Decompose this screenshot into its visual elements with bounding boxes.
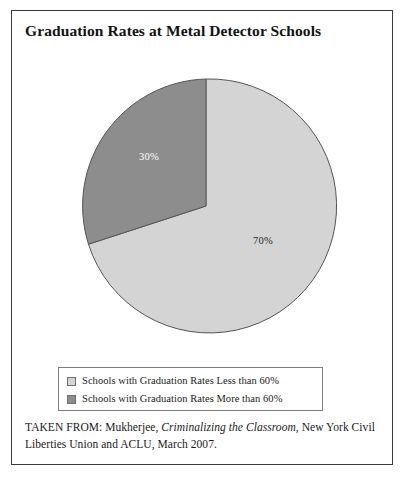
legend-swatch-icon-dark — [67, 395, 76, 404]
source-attribution: TAKEN FROM: Mukherjee, Criminalizing the… — [25, 419, 381, 452]
pie-chart-svg — [12, 59, 391, 351]
legend-item-label: Schools with Graduation Rates Less than … — [82, 375, 279, 387]
pie-label-more-than-60: 30% — [139, 151, 159, 162]
source-work-title: Criminalizing the Classroom — [161, 421, 295, 433]
page-title: Graduation Rates at Metal Detector Schoo… — [25, 22, 377, 41]
legend-item-less-than-60[interactable]: Schools with Graduation Rates Less than … — [67, 373, 322, 389]
pie-label-less-than-60: 70% — [253, 235, 273, 246]
legend-item-label: Schools with Graduation Rates More than … — [82, 393, 282, 405]
figure-frame: Graduation Rates at Metal Detector Schoo… — [11, 10, 393, 465]
legend-swatch-icon-light — [67, 377, 76, 386]
legend-item-more-than-60[interactable]: Schools with Graduation Rates More than … — [67, 391, 322, 407]
source-prefix: TAKEN FROM: Mukherjee, — [25, 421, 161, 433]
pie-chart: 30% 70% — [12, 59, 391, 351]
chart-legend: Schools with Graduation Rates Less than … — [58, 367, 323, 411]
